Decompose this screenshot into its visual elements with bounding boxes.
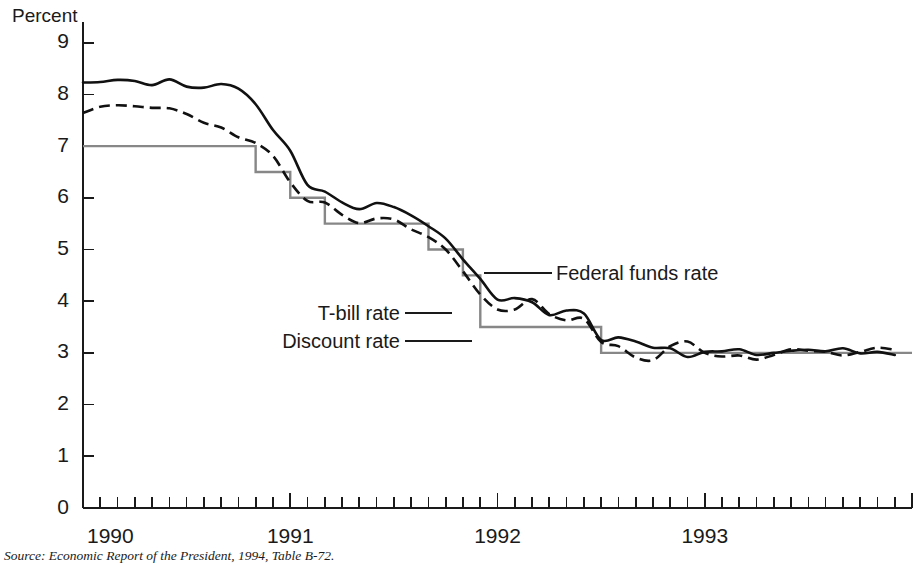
x-axis-year-label: 1991 xyxy=(267,524,314,547)
y-axis-tick-label: 0 xyxy=(57,495,69,518)
annotation-label-discount: Discount rate xyxy=(282,330,400,352)
x-axis-ticks xyxy=(83,493,912,508)
y-axis-tick-label: 5 xyxy=(57,236,69,259)
interest-rates-chart: Percent 0123456789 1990199119921993 Fede… xyxy=(0,0,920,565)
source-note: Source: Economic Report of the President… xyxy=(4,548,334,563)
series-line-federal-funds-rate xyxy=(83,79,895,357)
series-line-discount-rate xyxy=(83,146,912,353)
y-axis-tick-label: 4 xyxy=(57,288,69,311)
x-axis-year-label: 1993 xyxy=(681,524,728,547)
y-axis-tick-label: 6 xyxy=(57,184,69,207)
x-axis-year-label: 1992 xyxy=(474,524,521,547)
chart-svg: Percent 0123456789 1990199119921993 Fede… xyxy=(0,0,920,565)
annotation-label-federal-funds: Federal funds rate xyxy=(556,262,718,284)
series-line-tbill-rate xyxy=(83,105,895,361)
y-axis-title-group: Percent xyxy=(12,5,78,26)
x-axis-year-label: 1990 xyxy=(87,524,134,547)
y-axis-tick-label: 2 xyxy=(57,391,69,414)
annotation-tbill: T-bill rate xyxy=(318,302,452,324)
y-axis-tick-label: 9 xyxy=(57,29,69,52)
annotation-label-tbill: T-bill rate xyxy=(318,302,400,324)
annotation-discount: Discount rate xyxy=(282,330,472,352)
y-axis-ticks: 0123456789 xyxy=(57,29,94,517)
annotation-federal-funds: Federal funds rate xyxy=(484,262,718,284)
y-axis-tick-label: 3 xyxy=(57,339,69,362)
y-axis-tick-label: 8 xyxy=(57,81,69,104)
y-axis-tick-label: 7 xyxy=(57,133,69,156)
y-axis-title: Percent xyxy=(12,5,78,26)
y-axis-tick-label: 1 xyxy=(57,443,69,466)
x-axis-labels: 1990199119921993 xyxy=(87,524,728,547)
